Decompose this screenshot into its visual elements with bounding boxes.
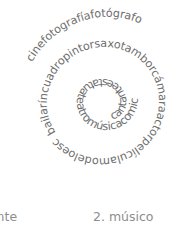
caption-left-label: tante (0, 209, 17, 224)
caption-right-label: 2. músico (93, 209, 154, 224)
caption-row: tante 2. músico (0, 204, 196, 231)
word-spiral-container: cantanteestatuateatromúsicacomicscaballa… (0, 0, 196, 200)
spiral-word-path-group: cantanteestatuateatromúsicacomicscaballa… (0, 0, 169, 168)
word-spiral-graphic: cantanteestatuateatromúsicacomicscaballa… (0, 0, 196, 200)
spiral-segment-outer-text: cinefotografíafotógrafo (23, 7, 144, 64)
spiral-segment-outer: cinefotografíafotógrafo (23, 7, 144, 64)
